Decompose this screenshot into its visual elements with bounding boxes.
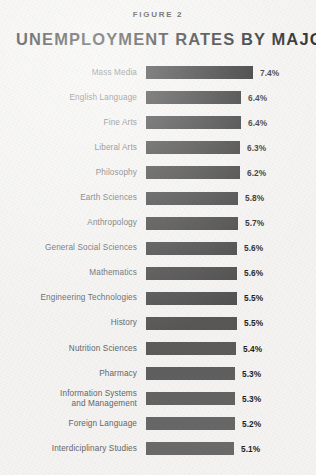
bar-area: 5.7% [146, 217, 316, 230]
bar-row-label: Earth Sciences [0, 193, 146, 203]
bar-value-label: 5.6% [244, 268, 263, 278]
bar-area: 5.5% [146, 317, 316, 330]
bar-row-label: Liberal Arts [0, 143, 146, 153]
bar-row-label: Foreign Language [0, 419, 146, 429]
bar-row-label: Mathematics [0, 268, 146, 278]
bar-row-label: Engineering Technologies [0, 293, 146, 303]
bar [146, 367, 235, 380]
bar-area: 6.4% [146, 91, 316, 104]
bar-row-label: Philosophy [0, 168, 146, 178]
bar-area: 5.5% [146, 292, 316, 305]
bar-row: Pharmacy5.3% [0, 361, 316, 386]
bar-row: Mathematics5.6% [0, 261, 316, 286]
bar-row: Nutrition Sciences5.4% [0, 336, 316, 361]
figure-number-label: FIGURE 2 [0, 0, 316, 19]
bar-value-label: 5.4% [243, 344, 262, 354]
bar [146, 392, 235, 405]
bar-area: 5.8% [146, 192, 316, 205]
bar [146, 66, 253, 79]
bar-area: 5.4% [146, 342, 316, 355]
bar-row: General Social Sciences5.6% [0, 236, 316, 261]
bar-row: Philosophy6.2% [0, 160, 316, 185]
bar-value-label: 5.8% [245, 193, 264, 203]
bar-area: 6.2% [146, 166, 316, 179]
bar-value-label: 6.4% [248, 93, 267, 103]
bar-area: 5.6% [146, 267, 316, 280]
bar-row-label-line2: and Management [0, 399, 137, 409]
bar-value-label: 5.5% [244, 318, 263, 328]
bar-row: Information Systemsand Management5.3% [0, 386, 316, 411]
bar-value-label: 6.3% [247, 143, 266, 153]
bar [146, 292, 237, 305]
bar-row: Fine Arts6.4% [0, 110, 316, 135]
figure-container: FIGURE 2 UNEMPLOYMENT RATES BY MAJOR Mas… [0, 0, 316, 475]
bar-row-label: Anthropology [0, 218, 146, 228]
bar-area: 5.2% [146, 417, 316, 430]
bar-value-label: 5.1% [241, 444, 260, 454]
bar-row-label: Information Systemsand Management [0, 389, 146, 409]
bar-row: Mass Media7.4% [0, 60, 316, 85]
bar [146, 166, 240, 179]
bar-area: 5.6% [146, 242, 316, 255]
bar-area: 5.1% [146, 442, 316, 455]
bar-area: 5.3% [146, 367, 316, 380]
bar-area: 6.3% [146, 141, 316, 154]
bar [146, 116, 241, 129]
bar [146, 267, 237, 280]
bar-row-label: General Social Sciences [0, 243, 146, 253]
bar [146, 217, 238, 230]
bar [146, 192, 238, 205]
bar-area: 7.4% [146, 66, 316, 79]
bar [146, 141, 240, 154]
bar-area: 6.4% [146, 116, 316, 129]
bar-row: History5.5% [0, 311, 316, 336]
chart-title: UNEMPLOYMENT RATES BY MAJOR [16, 30, 316, 49]
bar-value-label: 7.4% [260, 68, 279, 78]
bar-value-label: 5.3% [242, 394, 261, 404]
bar-row: Interdiciplinary Studies5.1% [0, 436, 316, 461]
bar-row: Foreign Language5.2% [0, 411, 316, 436]
bar-value-label: 5.5% [244, 293, 263, 303]
bar [146, 342, 236, 355]
bar [146, 417, 235, 430]
bar-value-label: 5.6% [244, 243, 263, 253]
bar-row-label: Interdiciplinary Studies [0, 444, 146, 454]
bar-value-label: 5.3% [242, 369, 261, 379]
bar-row-label: English Language [0, 93, 146, 103]
bar-row-label: Fine Arts [0, 118, 146, 128]
bar [146, 442, 234, 455]
bar-value-label: 5.2% [242, 419, 261, 429]
bar-value-label: 6.2% [247, 168, 266, 178]
bar-area: 5.3% [146, 392, 316, 405]
bar [146, 317, 237, 330]
bar-chart-rows: Mass Media7.4%English Language6.4%Fine A… [0, 60, 316, 462]
bar-value-label: 6.4% [248, 118, 267, 128]
bar-row-label: Mass Media [0, 68, 146, 78]
bar-row: Anthropology5.7% [0, 211, 316, 236]
bar-row-label: Pharmacy [0, 369, 146, 379]
bar-row-label: History [0, 318, 146, 328]
bar [146, 91, 241, 104]
bar-row: Engineering Technologies5.5% [0, 286, 316, 311]
bar-row-label: Nutrition Sciences [0, 344, 146, 354]
bar-row: Earth Sciences5.8% [0, 185, 316, 210]
bar-row: Liberal Arts6.3% [0, 135, 316, 160]
bar [146, 242, 237, 255]
bar-value-label: 5.7% [245, 218, 264, 228]
bar-row: English Language6.4% [0, 85, 316, 110]
